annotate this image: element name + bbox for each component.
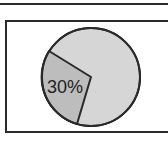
slice-label: 30% <box>47 77 83 97</box>
pie-chart: 30% <box>0 0 168 141</box>
